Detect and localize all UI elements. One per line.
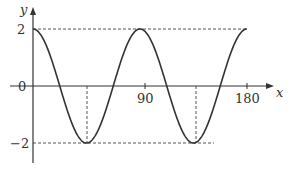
tick-label-90: 90 [137, 91, 154, 106]
tick-label-2: 2 [17, 22, 25, 37]
y-axis-arrow-icon [30, 7, 36, 15]
y-axis-label: y [19, 2, 28, 17]
x-axis-arrow-icon [266, 83, 274, 89]
tick-label-neg2: −2 [10, 136, 29, 151]
cosine-chart: y x 2 0 −2 90 180 [0, 0, 289, 172]
x-axis-label: x [276, 85, 284, 100]
tick-label-0: 0 [18, 79, 26, 94]
tick-label-180: 180 [235, 91, 260, 106]
